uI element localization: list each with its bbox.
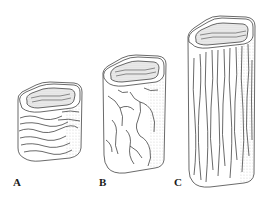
specimen-b <box>103 55 166 173</box>
specimen-a <box>18 82 82 161</box>
specimen-c <box>188 16 255 187</box>
label-c: C <box>174 176 182 188</box>
label-b: B <box>99 176 107 188</box>
label-a: A <box>13 176 21 188</box>
specimen-figure: A B <box>0 0 269 200</box>
